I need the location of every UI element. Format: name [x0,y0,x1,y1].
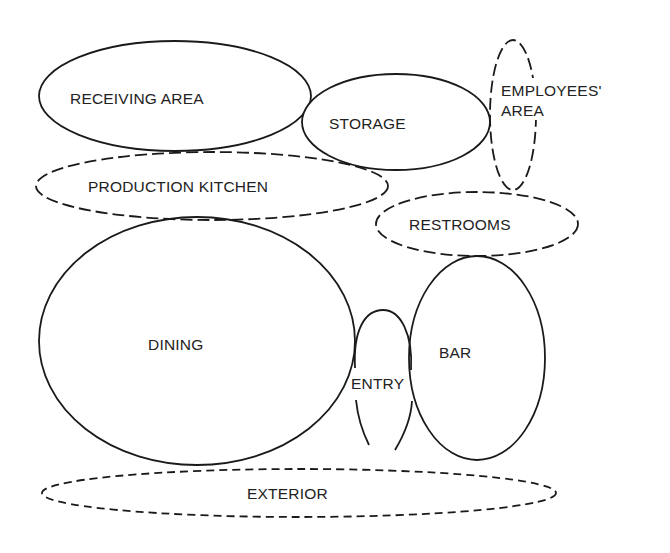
bar-label: BAR [439,344,471,361]
production-kitchen-label: PRODUCTION KITCHEN [88,178,268,195]
employees-area-label-line2: AREA [501,102,544,119]
zone-dining: DINING [39,217,355,465]
zone-employees-area: EMPLOYEES' AREA [490,40,660,190]
zone-entry: ENTRY [351,310,412,450]
receiving-area-label: RECEIVING AREA [70,90,204,107]
zone-receiving-area: RECEIVING AREA [39,41,311,151]
entry-label: ENTRY [351,375,404,392]
employees-area-label-line1: EMPLOYEES' [501,82,602,99]
storage-label: STORAGE [329,115,406,132]
zone-exterior: EXTERIOR [42,469,556,517]
restaurant-adjacency-diagram: RECEIVING AREA STORAGE EMPLOYEES' AREA P… [0,0,670,553]
zone-bar: BAR [409,256,545,460]
bar-bubble [409,256,545,460]
exterior-label: EXTERIOR [247,485,328,502]
zone-restrooms: RESTROOMS [376,192,578,256]
dining-label: DINING [148,336,203,353]
entry-bubble-lower-right [395,401,412,450]
entry-bubble-upper [355,310,411,370]
zone-storage: STORAGE [302,74,490,170]
entry-bubble-lower [356,400,369,445]
restrooms-label: RESTROOMS [409,216,511,233]
zone-production-kitchen: PRODUCTION KITCHEN [36,152,388,220]
